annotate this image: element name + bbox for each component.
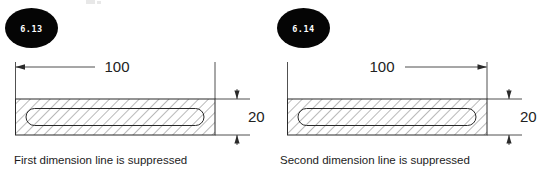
figure-caption: First dimension line is suppressed — [14, 154, 187, 166]
figure-left-canvas: 6.13 100 20 First d — [0, 0, 271, 178]
badge-label: 6.14 — [292, 24, 314, 34]
dimension-value-height: 20 — [248, 108, 265, 125]
dimension-value-length: 100 — [369, 58, 394, 75]
arrowhead-down-icon — [234, 91, 239, 100]
crop-artifact — [86, 0, 95, 4]
figure-6-14: 6.14 100 20 Second dimension line — [272, 0, 543, 178]
arrowhead-down-icon — [506, 91, 511, 100]
badge-label: 6.13 — [20, 24, 42, 34]
arrowhead-up-icon — [506, 135, 511, 144]
arrowhead-right-icon — [478, 64, 488, 70]
arrowhead-left-icon — [16, 64, 26, 70]
arrowhead-up-icon — [234, 135, 239, 144]
section-hatching — [16, 99, 216, 135]
figure-right-canvas: 6.14 100 20 Second dimension line — [272, 0, 543, 178]
drawing-page: 6.13 100 20 First d — [0, 0, 543, 178]
figure-caption: Second dimension line is suppressed — [280, 154, 470, 166]
crop-artifact — [97, 1, 101, 4]
figure-6-13: 6.13 100 20 First d — [0, 0, 271, 178]
section-hatching — [288, 99, 488, 135]
dimension-value-length: 100 — [104, 58, 129, 75]
dimension-value-height: 20 — [520, 108, 537, 125]
